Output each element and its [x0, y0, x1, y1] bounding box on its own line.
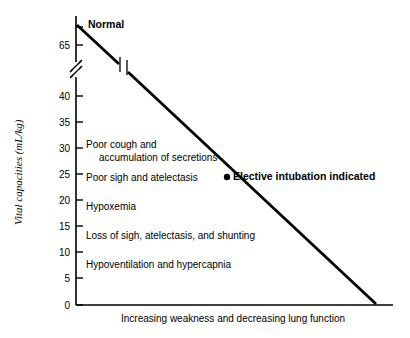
ytick-label-40: 40	[59, 91, 71, 102]
annotation-poor-sigh: Poor sigh and atelectasis	[86, 172, 198, 183]
ytick-label-15: 15	[59, 221, 71, 232]
ytick-label-20: 20	[59, 195, 71, 206]
annotation-loss-of-sigh: Loss of sigh, atelectasis, and shunting	[86, 230, 255, 241]
annotation-hypoventilation: Hypoventilation and hypercapnia	[86, 259, 232, 270]
annotation-poor-cough-line1: Poor cough and	[86, 139, 157, 150]
x-axis-title: Increasing weakness and decreasing lung …	[121, 313, 345, 324]
elective-intubation-marker	[224, 174, 230, 180]
y-axis-title: Vital capacities (mL/kg)	[12, 119, 25, 225]
ytick-label-0: 0	[64, 300, 70, 311]
vital-capacity-chart: 65 40 35 30 25 20 15 10 5 0 Vital capaci…	[0, 0, 410, 338]
annotation-normal: Normal	[88, 18, 124, 30]
annotation-poor-cough-line2: accumulation of secretions	[99, 152, 217, 163]
ytick-label-35: 35	[59, 117, 71, 128]
ytick-label-65: 65	[59, 40, 71, 51]
ytick-label-25: 25	[59, 169, 71, 180]
ytick-label-30: 30	[59, 143, 71, 154]
annotation-elective-intubation: Elective intubation indicated	[233, 170, 375, 182]
ytick-label-10: 10	[59, 247, 71, 258]
ytick-label-5: 5	[64, 273, 70, 284]
annotation-hypoxemia: Hypoxemia	[86, 201, 136, 212]
